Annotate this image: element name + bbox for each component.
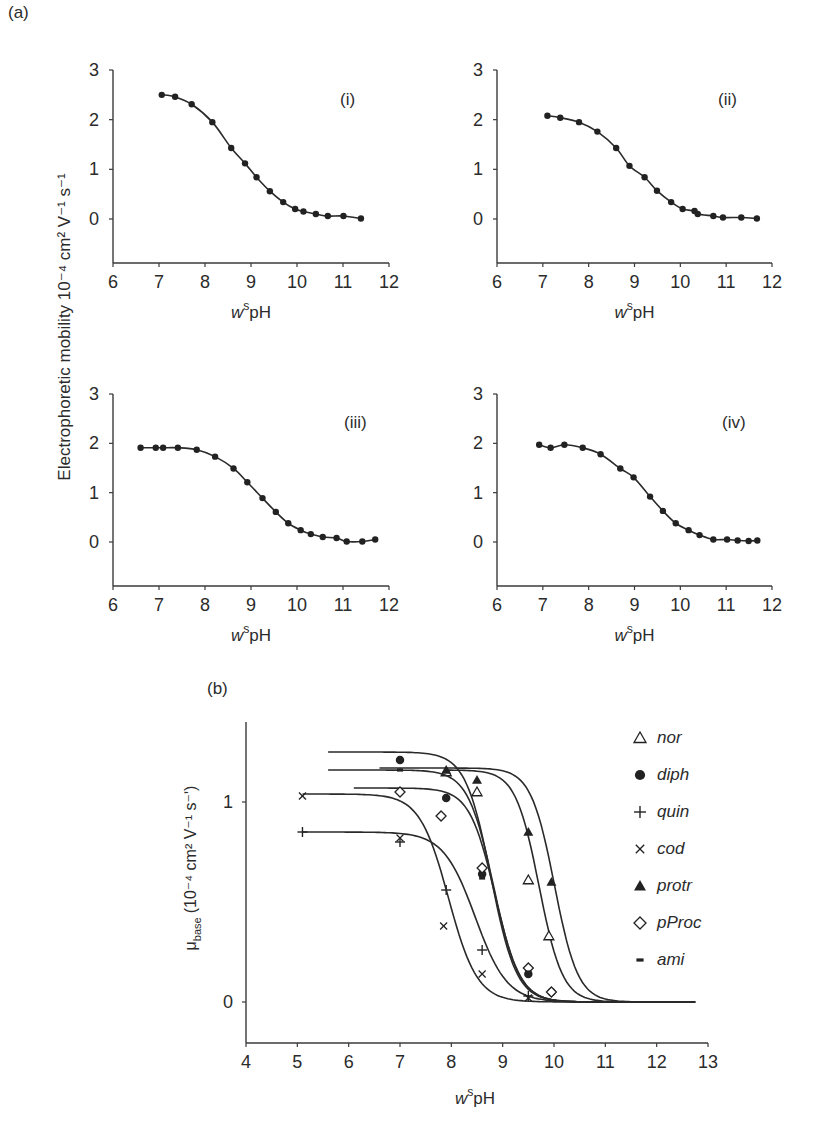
series-pProc <box>354 787 695 1002</box>
data-point <box>259 495 265 501</box>
fit-curve <box>547 116 756 219</box>
series-cod <box>299 793 695 1003</box>
data-point <box>626 163 632 169</box>
data-point <box>580 445 586 451</box>
chart-canvas: (a) 01236789101112(i)wspH01236789101112(… <box>0 0 816 1142</box>
x-tick-label: 12 <box>379 272 399 292</box>
marker-filled-circle <box>396 756 405 765</box>
data-point <box>685 527 691 533</box>
y-tick-label: 2 <box>473 433 483 453</box>
marker-dash <box>636 958 643 961</box>
data-point <box>343 538 349 544</box>
panel-a-label: (a) <box>8 3 29 22</box>
legend-label: protr <box>656 876 693 895</box>
x-tick-label: 7 <box>154 595 164 615</box>
data-point <box>297 527 303 533</box>
x-tick-label: 9 <box>246 272 256 292</box>
data-point <box>153 445 159 451</box>
y-tick-label: 1 <box>473 159 483 179</box>
x-tick-label: 9 <box>246 595 256 615</box>
panel-b-label: (b) <box>207 679 228 698</box>
marker-filled-triangle <box>546 877 556 886</box>
x-tick-label: 8 <box>200 595 210 615</box>
y-tick-label: 2 <box>473 110 483 130</box>
legend-item-nor: nor <box>634 728 683 747</box>
data-point <box>710 536 716 542</box>
x-tick-label: 12 <box>379 595 399 615</box>
data-point <box>188 101 194 107</box>
marker-open-triangle <box>634 732 646 743</box>
panel-ii: 01236789101112(ii)wspH <box>473 60 782 322</box>
y-tick-label: 1 <box>223 792 233 812</box>
subpanel-label: (iii) <box>344 413 367 432</box>
data-point <box>734 537 740 543</box>
y-tick-label: 2 <box>89 433 99 453</box>
data-point <box>253 174 259 180</box>
series-quin <box>297 827 695 1002</box>
data-point <box>267 188 273 194</box>
x-tick-label: 6 <box>492 272 502 292</box>
x-tick-label: 11 <box>334 272 353 292</box>
data-point <box>372 536 378 542</box>
y-tick-label: 0 <box>473 532 483 552</box>
x-axis-title: wspH <box>231 622 271 645</box>
x-tick-label: 7 <box>538 595 548 615</box>
data-point <box>673 520 679 526</box>
legend-item-ami: ami <box>636 950 685 969</box>
legend-label: pProc <box>656 913 702 932</box>
y-tick-label: 1 <box>473 483 483 503</box>
x-tick-label: 9 <box>629 272 639 292</box>
marker-x <box>636 845 644 853</box>
series-protr <box>380 765 696 1002</box>
data-point <box>325 213 331 219</box>
data-point <box>160 445 166 451</box>
marker-open-diamond <box>546 987 556 997</box>
x-tick-label: 8 <box>584 595 594 615</box>
fit-curve <box>141 448 376 542</box>
y-tick-label: 1 <box>89 159 99 179</box>
data-point <box>242 160 248 166</box>
legend: nordiphquincodprotrpProcami <box>634 728 702 969</box>
data-point <box>300 208 306 214</box>
data-point <box>544 112 550 118</box>
data-point <box>358 215 364 221</box>
data-point <box>547 445 553 451</box>
data-point <box>359 538 365 544</box>
y-tick-label: 3 <box>89 60 99 80</box>
x-tick-label: 7 <box>538 272 548 292</box>
y-tick-label: 0 <box>89 209 99 229</box>
x-tick-label: 12 <box>762 272 782 292</box>
marker-filled-triangle <box>634 880 646 891</box>
marker-open-diamond <box>634 917 646 929</box>
legend-label: diph <box>657 765 689 784</box>
data-point <box>720 214 726 220</box>
data-point <box>137 445 143 451</box>
legend-item-cod: cod <box>636 839 685 858</box>
data-point <box>695 211 701 217</box>
x-tick-label: 7 <box>395 1052 405 1072</box>
legend-label: quin <box>657 802 689 821</box>
x-tick-label: 7 <box>154 272 164 292</box>
x-tick-label: 5 <box>292 1052 302 1072</box>
data-point <box>244 479 250 485</box>
marker-plus <box>634 806 646 818</box>
x-tick-label: 6 <box>108 272 118 292</box>
data-point <box>724 536 730 542</box>
x-tick-label: 6 <box>344 1052 354 1072</box>
data-point <box>745 538 751 544</box>
data-point <box>209 119 215 125</box>
marker-dash <box>479 876 485 879</box>
x-tick-label: 8 <box>584 272 594 292</box>
data-point <box>630 474 636 480</box>
y-axis-title-b: μbase(10⁻⁴ cm² V⁻¹ s⁻ʹ) <box>182 786 203 951</box>
x-tick-label: 12 <box>647 1052 667 1072</box>
panels-a: 01236789101112(i)wspH01236789101112(ii)w… <box>89 60 782 645</box>
marker-filled-triangle <box>523 827 533 836</box>
marker-open-diamond <box>436 811 446 821</box>
y-tick-label: 0 <box>223 992 233 1012</box>
x-axis-title: wspH <box>455 1085 495 1108</box>
data-point <box>320 534 326 540</box>
data-point <box>333 535 339 541</box>
fit-curve <box>539 445 757 541</box>
y-tick-label: 2 <box>89 110 99 130</box>
